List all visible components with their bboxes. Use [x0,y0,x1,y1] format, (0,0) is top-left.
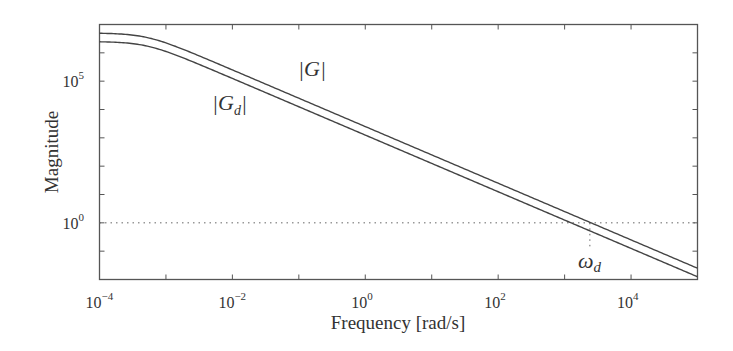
plot-frame [100,25,698,280]
x-tick-label: 100 [351,290,373,311]
y-tick-label: 105 [63,69,85,90]
axis-ticks [100,25,698,280]
curves [100,33,698,276]
g-curve-label: |G| [298,56,326,81]
x-tick-label: 102 [484,290,506,311]
bode-magnitude-chart: 10−410−2100102104100105 |G| |Gd| ωd Freq… [0,0,733,351]
y-axis-title: Magnitude [41,111,62,193]
gd-curve-label: |Gd| [212,90,247,118]
x-axis-title: Frequency [rad/s] [331,312,466,333]
omega-d-label: ωd [578,248,602,275]
x-tick-label: 10−4 [86,290,114,311]
g-curve [100,33,698,268]
tick-labels: 10−410−2100102104100105 [63,69,640,310]
x-tick-label: 10−2 [218,290,246,311]
x-tick-label: 104 [617,290,639,311]
y-tick-label: 100 [63,211,85,232]
reference-lines [100,223,698,249]
gd-curve [100,42,698,277]
